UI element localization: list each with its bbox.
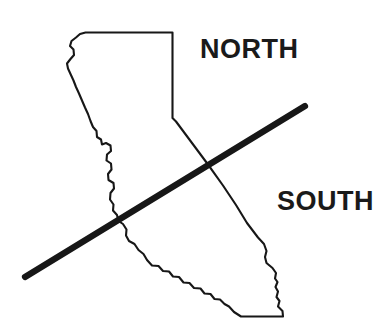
region-label-north: NORTH: [200, 34, 299, 64]
region-label-south: SOUTH: [277, 186, 374, 216]
map-figure: NORTH SOUTH: [0, 0, 390, 334]
figure-background: [0, 0, 390, 334]
california-map-graphic: NORTH SOUTH: [0, 0, 390, 334]
